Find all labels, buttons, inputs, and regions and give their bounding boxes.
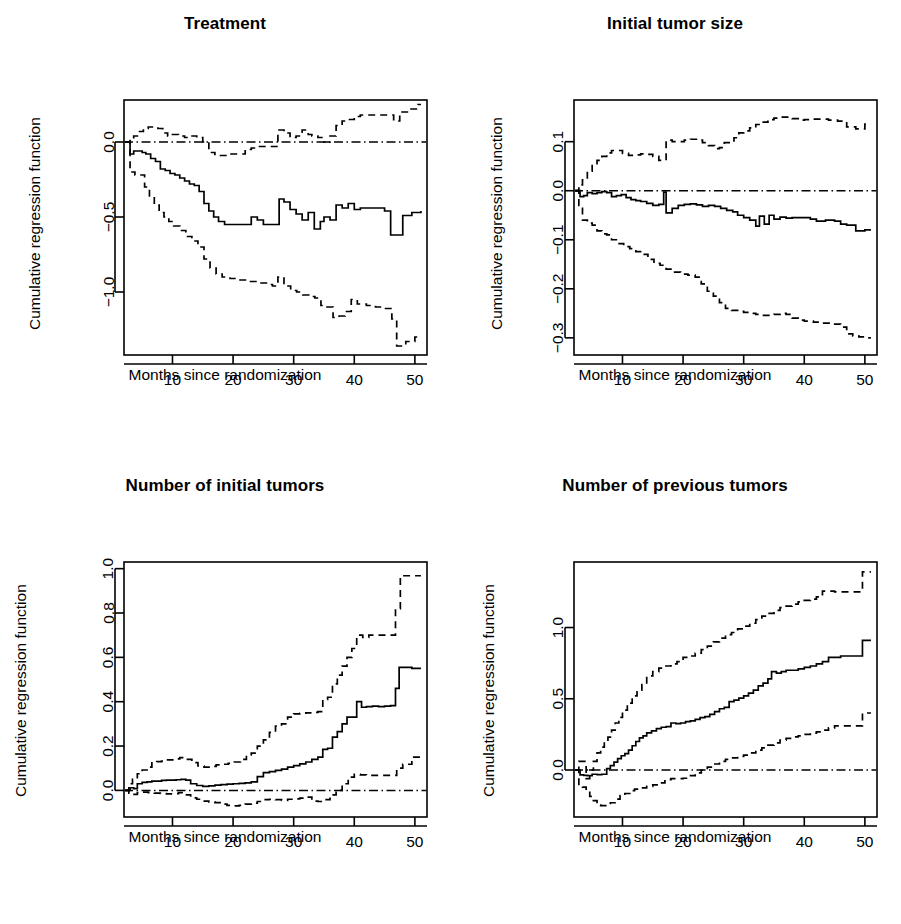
x-axis-label: Months since randomization: [450, 828, 900, 846]
svg-text:0.4: 0.4: [100, 691, 117, 713]
panel-treatment: Treatment Cumulative regression function…: [0, 0, 450, 462]
panel-number-of-previous-tumors: Number of previous tumors Cumulative reg…: [450, 462, 900, 924]
svg-text:0.0: 0.0: [100, 779, 117, 801]
svg-text:1.0: 1.0: [100, 558, 117, 580]
svg-text:−1.0: −1.0: [100, 276, 117, 307]
svg-text:−0.5: −0.5: [100, 202, 117, 233]
svg-text:0.0: 0.0: [550, 180, 567, 202]
x-axis-label: Months since randomization: [0, 366, 450, 384]
panel-number-of-initial-tumors: Number of initial tumors Cumulative regr…: [0, 462, 450, 924]
panel-initial-tumor-size: Initial tumor size Cumulative regression…: [450, 0, 900, 462]
svg-text:0.2: 0.2: [100, 735, 117, 757]
svg-text:−0.1: −0.1: [550, 224, 567, 255]
svg-text:0.1: 0.1: [550, 131, 567, 153]
svg-text:0.8: 0.8: [100, 602, 117, 624]
plot-area: 10203040501.00.50.0: [450, 462, 900, 862]
svg-text:0.0: 0.0: [550, 759, 567, 781]
svg-text:−0.3: −0.3: [550, 323, 567, 354]
svg-text:1.0: 1.0: [550, 616, 567, 638]
plot-area: 10203040500.10.0−0.1−0.2−0.3: [450, 0, 900, 400]
svg-text:0.5: 0.5: [550, 688, 567, 710]
figure-container: Treatment Cumulative regression function…: [0, 0, 901, 924]
svg-text:−0.2: −0.2: [550, 273, 567, 304]
x-axis-label: Months since randomization: [0, 828, 450, 846]
svg-text:0.0: 0.0: [100, 131, 117, 153]
plot-area: 10203040501.00.80.60.40.20.0: [0, 462, 450, 862]
plot-area: 10203040500.0−0.5−1.0: [0, 0, 450, 400]
x-axis-label: Months since randomization: [450, 366, 900, 384]
svg-text:0.6: 0.6: [100, 647, 117, 669]
